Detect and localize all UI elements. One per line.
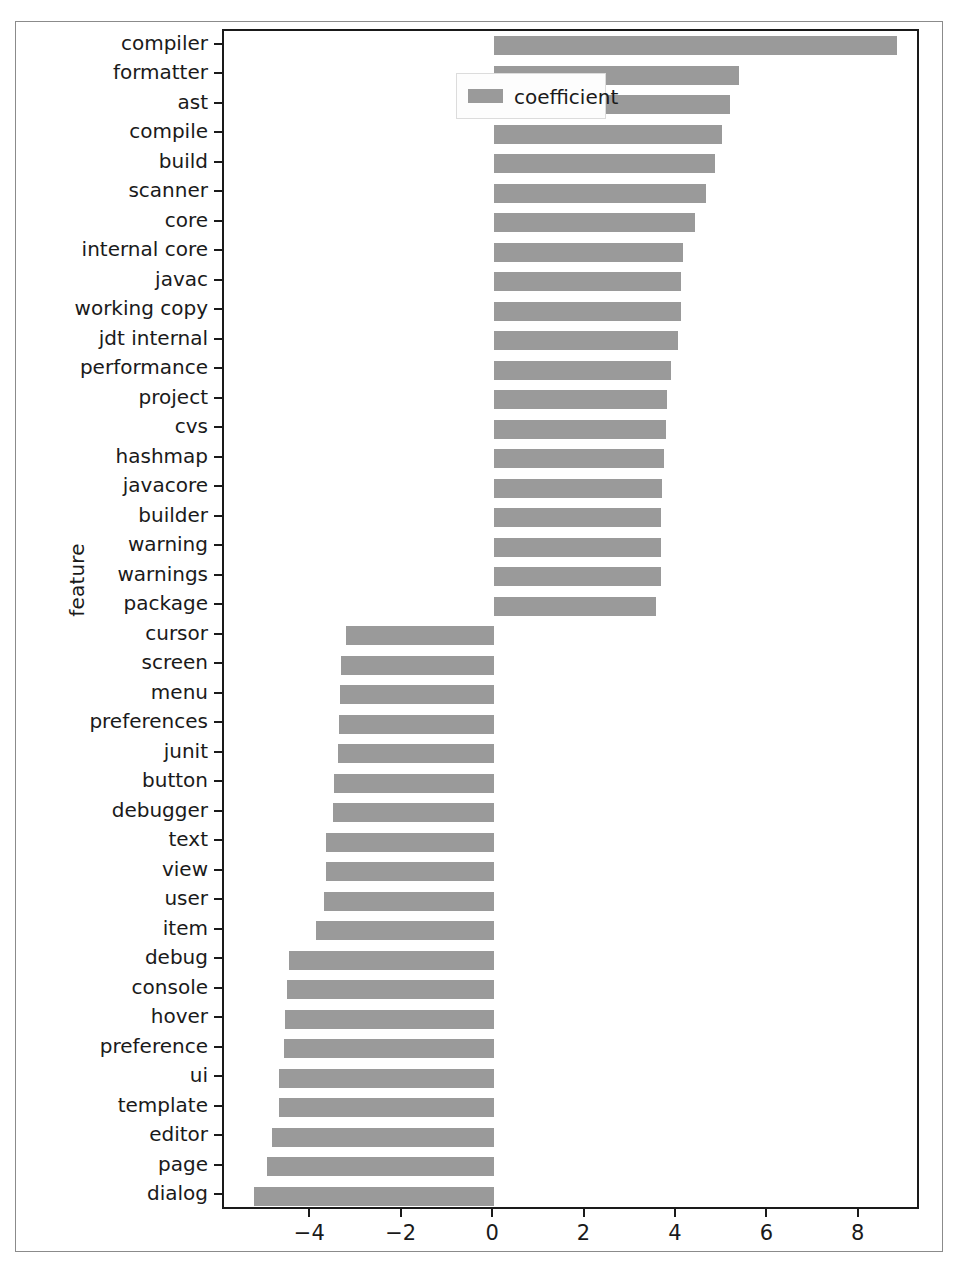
bar-page — [267, 1157, 494, 1176]
bar-hover — [285, 1010, 494, 1029]
y-tick-mark — [214, 1046, 222, 1048]
bar-project — [494, 390, 667, 409]
y-tick-mark — [214, 1075, 222, 1077]
bar-javac — [494, 272, 681, 291]
y-tick-label-text: text — [169, 829, 208, 849]
bar-cursor — [346, 626, 494, 645]
y-tick-mark — [214, 485, 222, 487]
y-tick-mark — [214, 957, 222, 959]
y-tick-mark — [214, 1134, 222, 1136]
y-tick-label-build: build — [159, 151, 208, 171]
bar-builder — [494, 508, 661, 527]
y-tick-label-cursor: cursor — [145, 623, 208, 643]
y-tick-label-compile: compile — [129, 121, 208, 141]
y-tick-label-builder: builder — [138, 505, 208, 525]
y-tick-mark — [214, 1193, 222, 1195]
y-tick-label-working-copy: working copy — [75, 298, 208, 318]
y-tick-mark — [214, 1105, 222, 1107]
y-tick-label-view: view — [162, 859, 208, 879]
bar-scanner — [494, 184, 706, 203]
bar-javacore — [494, 479, 662, 498]
bar-debug — [289, 951, 494, 970]
y-tick-label-scanner: scanner — [128, 180, 208, 200]
y-tick-mark — [214, 397, 222, 399]
y-tick-label-button: button — [142, 770, 208, 790]
y-tick-label-core: core — [165, 210, 208, 230]
y-tick-mark — [214, 721, 222, 723]
y-tick-label-console: console — [132, 977, 208, 997]
x-tick-label: 2 — [554, 1221, 614, 1246]
x-tick-mark — [583, 1209, 585, 1217]
bar-button — [334, 774, 494, 793]
y-axis-tick-label-group: compilerformatterastcompilebuildscannerc… — [0, 0, 222, 1268]
y-tick-label-page: page — [158, 1154, 208, 1174]
y-tick-mark — [214, 869, 222, 871]
bar-user — [324, 892, 494, 911]
bar-junit — [338, 744, 494, 763]
bar-cvs — [494, 420, 666, 439]
y-tick-mark — [214, 515, 222, 517]
y-tick-label-performance: performance — [80, 357, 208, 377]
y-tick-label-internal-core: internal core — [82, 239, 208, 259]
y-tick-mark — [214, 161, 222, 163]
y-tick-label-template: template — [118, 1095, 208, 1115]
y-tick-label-preference: preference — [100, 1036, 208, 1056]
y-tick-mark — [214, 279, 222, 281]
bar-hashmap — [494, 449, 664, 468]
bar-performance — [494, 361, 670, 380]
y-tick-mark — [214, 898, 222, 900]
bar-warning — [494, 538, 661, 557]
y-tick-label-jdt-internal: jdt internal — [99, 328, 208, 348]
bar-compiler — [494, 36, 897, 55]
bar-package — [494, 597, 656, 616]
y-tick-label-menu: menu — [151, 682, 208, 702]
y-tick-label-editor: editor — [149, 1124, 208, 1144]
bar-menu — [340, 685, 494, 704]
y-tick-label-debugger: debugger — [112, 800, 208, 820]
y-tick-mark — [214, 102, 222, 104]
y-tick-label-compiler: compiler — [121, 33, 208, 53]
bar-core — [494, 213, 695, 232]
bar-jdt-internal — [494, 331, 678, 350]
y-tick-mark — [214, 692, 222, 694]
y-tick-mark — [214, 308, 222, 310]
bar-item — [316, 921, 494, 940]
y-tick-label-javac: javac — [155, 269, 208, 289]
y-tick-mark — [214, 662, 222, 664]
y-tick-mark — [214, 574, 222, 576]
y-tick-label-ui: ui — [190, 1065, 208, 1085]
x-tick-mark — [400, 1209, 402, 1217]
bar-working-copy — [494, 302, 680, 321]
y-tick-mark — [214, 633, 222, 635]
y-tick-label-ast: ast — [177, 92, 208, 112]
y-tick-mark — [214, 131, 222, 133]
y-tick-mark — [214, 780, 222, 782]
y-tick-mark — [214, 544, 222, 546]
x-tick-label: 0 — [462, 1221, 522, 1246]
plot-axes: coefficient — [222, 29, 919, 1209]
y-tick-mark — [214, 839, 222, 841]
y-tick-label-javacore: javacore — [123, 475, 208, 495]
y-tick-mark — [214, 1164, 222, 1166]
bar-warnings — [494, 567, 661, 586]
y-tick-mark — [214, 928, 222, 930]
y-tick-mark — [214, 810, 222, 812]
bar-screen — [341, 656, 494, 675]
y-tick-label-screen: screen — [142, 652, 208, 672]
x-tick-label: 6 — [736, 1221, 796, 1246]
y-tick-mark — [214, 367, 222, 369]
x-tick-label: 4 — [645, 1221, 705, 1246]
y-tick-label-junit: junit — [164, 741, 208, 761]
chart-legend: coefficient — [456, 73, 606, 119]
y-tick-mark — [214, 987, 222, 989]
y-tick-mark — [214, 338, 222, 340]
x-tick-mark — [674, 1209, 676, 1217]
y-tick-mark — [214, 72, 222, 74]
y-tick-mark — [214, 43, 222, 45]
bar-template — [279, 1098, 494, 1117]
y-tick-mark — [214, 190, 222, 192]
y-tick-mark — [214, 426, 222, 428]
bar-dialog — [254, 1187, 494, 1206]
y-tick-label-package: package — [124, 593, 208, 613]
bar-console — [287, 980, 494, 999]
